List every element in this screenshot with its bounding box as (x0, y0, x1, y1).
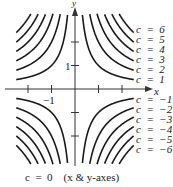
curve-c--2 (90, 108, 134, 164)
curve-c-2 (16, 108, 60, 164)
curve-c-4 (105, 14, 134, 51)
curve-c--4 (105, 127, 134, 164)
y-axis-label: y (72, 0, 76, 8)
label-c-1: c = 1 (136, 74, 165, 84)
y-axis-arrow-icon (72, 7, 78, 16)
y-tick-label: 1 (65, 61, 71, 71)
curve-c--2 (16, 14, 60, 70)
curve-c-4 (16, 127, 45, 164)
label-c-neg6: c = −6 (136, 144, 172, 154)
x-axis-arrow-icon (145, 86, 153, 92)
x-tick-label: −1 (43, 95, 55, 105)
curve-c--4 (16, 14, 45, 51)
curve-c-2 (90, 14, 134, 70)
caption-c-zero: c = 0 (x & y-axes) (25, 171, 119, 183)
